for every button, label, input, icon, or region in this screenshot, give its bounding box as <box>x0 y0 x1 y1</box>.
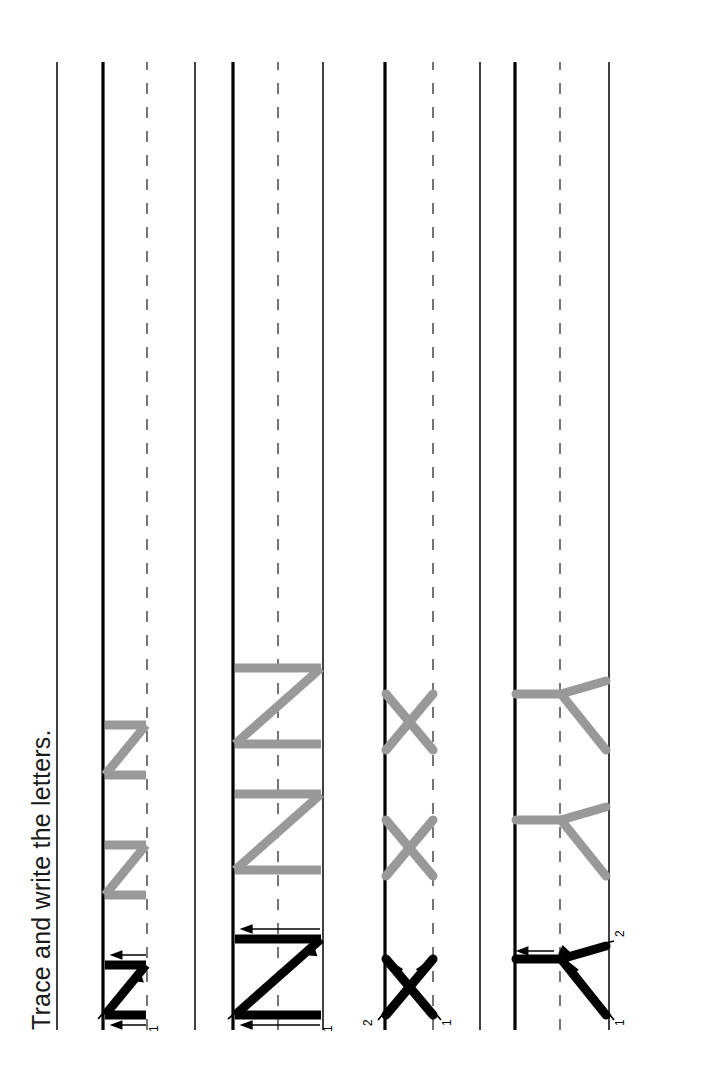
rotated-canvas: Trace and write the letters. <box>0 0 705 1077</box>
page-title: Trace and write the letters. <box>27 729 55 1030</box>
row-1-stroke-number-1: 1 <box>613 1019 627 1026</box>
row-3-stroke-number-1: 1 <box>321 1025 335 1032</box>
page-background <box>0 0 705 1077</box>
row-4-stroke-number-1: 1 <box>147 1025 161 1032</box>
worksheet-page: Trace and write the letters. <box>0 0 705 1077</box>
row-2-stroke-number-2: 2 <box>361 1019 375 1026</box>
row-1-stroke-number-2: 2 <box>613 930 627 937</box>
row-2-stroke-number-1: 1 <box>440 1019 454 1026</box>
handwriting-worksheet: Trace and write the letters. <box>0 0 705 1077</box>
